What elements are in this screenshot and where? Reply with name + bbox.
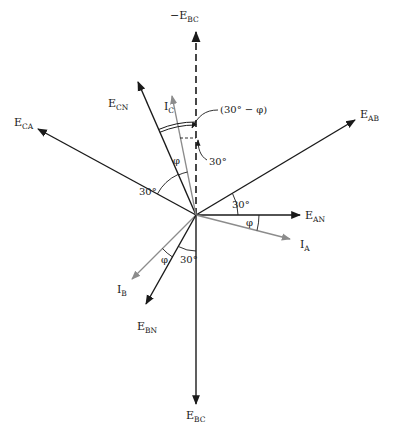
phasor-eab — [196, 120, 355, 215]
label-ia: IA — [300, 238, 310, 253]
phasor-diagram: −EBC EBC ECA EAB EAN IA ECN IC IB EBN (3… — [0, 0, 395, 432]
label-eca: ECA — [14, 116, 34, 131]
label-30-bc: 30° — [180, 254, 198, 265]
leader-30 — [198, 140, 207, 160]
label-ecn: ECN — [108, 97, 129, 112]
label-eab: EAB — [360, 108, 379, 123]
label-30-ab: 30° — [232, 199, 250, 210]
label-ebn: EBN — [137, 320, 158, 335]
arc-phi-a — [257, 215, 259, 231]
arc-30-bc — [178, 247, 196, 252]
label-phi-c: φ — [173, 155, 180, 166]
label-30-minus-phi: (30° − φ) — [220, 104, 267, 115]
label-phi-a: φ — [246, 217, 253, 228]
phasor-ia — [196, 215, 290, 239]
label-30-ca: 30° — [139, 186, 157, 197]
arc-30-ca — [157, 175, 178, 195]
label-ean: EAN — [305, 209, 325, 224]
label-30-ic: 30° — [209, 156, 227, 167]
arc-phi-c — [178, 172, 187, 175]
label-phi-b: φ — [161, 254, 168, 265]
arc-30-ecn — [159, 122, 196, 132]
label-ib: IB — [117, 283, 127, 298]
label-ebc: EBC — [186, 409, 206, 424]
phasor-ib — [132, 215, 196, 279]
label-neg-ebc: −EBC — [170, 9, 199, 24]
phasor-eca — [38, 129, 196, 215]
